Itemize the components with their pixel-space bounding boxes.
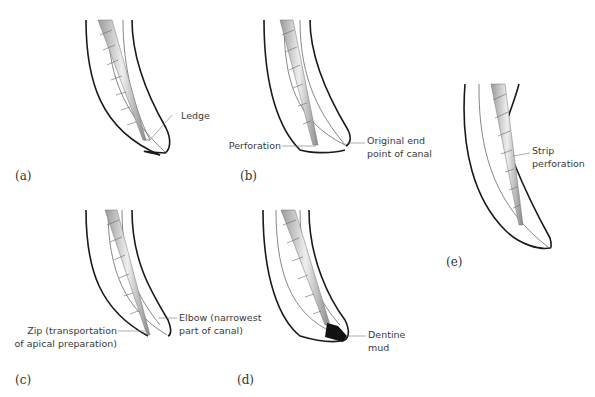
label-dentine-mud-2: mud [368, 342, 389, 354]
label-perforation: Perforation [227, 140, 281, 152]
label-zip-1: Zip (transportation [10, 325, 117, 337]
label-zip-2: of apical preparation) [10, 338, 117, 350]
panel-tag-e: (e) [446, 255, 462, 269]
panel-a-root [86, 20, 172, 155]
panel-tag-a: (a) [15, 169, 32, 183]
panel-tag-d: (d) [237, 373, 254, 387]
label-strip-perforation-1: Strip [532, 145, 554, 157]
panel-tag-c: (c) [15, 373, 31, 387]
label-elbow-2: part of canal) [179, 325, 243, 337]
label-strip-perforation-2: perforation [532, 158, 585, 170]
panel-d-root [263, 210, 366, 342]
panel-b-root [264, 20, 365, 153]
panel-c-root [86, 210, 177, 336]
label-original-end-1: Original end [367, 135, 425, 147]
label-dentine-mud-1: Dentine [368, 329, 405, 341]
label-ledge: Ledge [181, 110, 210, 122]
label-original-end-2: point of canal [367, 148, 432, 160]
label-elbow-1: Elbow (narrowest [179, 312, 261, 324]
panel-tag-b: (b) [240, 169, 257, 183]
dentine-mud-plug [325, 323, 347, 342]
